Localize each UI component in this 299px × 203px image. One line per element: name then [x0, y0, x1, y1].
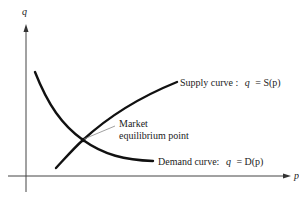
demand-curve-label-text: Demand curve:: [158, 156, 219, 167]
supply-equation-rhs: = S(p): [255, 77, 280, 89]
demand-curve: [35, 72, 153, 161]
supply-curve-label-text: Supply curve :: [180, 77, 238, 88]
demand-curve-label: Demand curve: q = D(p): [158, 156, 263, 168]
supply-demand-diagram: q p Market equilibrium point Supply curv…: [0, 0, 299, 203]
equilibrium-label-line2: equilibrium point: [119, 130, 189, 141]
equilibrium-leader-line: [84, 126, 115, 139]
q-axis-arrow-icon: [24, 24, 29, 32]
q-axis-label: q: [22, 6, 27, 17]
demand-equation-lhs: q: [226, 156, 231, 167]
equilibrium-label-line1: Market: [119, 118, 148, 129]
p-axis-label: p: [293, 170, 299, 181]
demand-equation-rhs: = D(p): [236, 156, 263, 168]
supply-equation-lhs: q: [245, 77, 250, 88]
supply-curve-label: Supply curve : q = S(p): [180, 77, 281, 89]
p-axis-arrow-icon: [283, 174, 291, 179]
